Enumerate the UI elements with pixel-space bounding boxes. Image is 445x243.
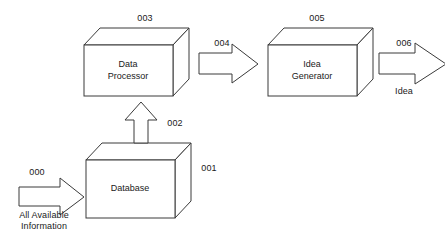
ref-label-003: 003 [137,13,152,24]
data-processor-label: Data Processor [108,59,149,82]
idea-generator-top-face [268,28,373,45]
ref-label-000: 000 [29,167,44,178]
ref-label-001: 001 [201,163,216,174]
ref-label-005: 005 [309,13,324,24]
ref-label-004: 004 [214,38,229,49]
arrow-006-output [379,43,445,84]
database-label: Database [111,183,150,195]
arrow-002-up [125,102,157,143]
block-database [86,143,191,218]
ref-label-006: 006 [396,38,411,49]
arrow-006-caption: Idea [395,86,413,97]
data-processor-top-face [84,28,189,45]
database-top-face [86,143,191,160]
ref-label-002: 002 [167,118,182,129]
arrow-004-right [199,44,258,83]
arrow-000-caption: All Available Information [19,210,69,232]
block-diagram: Data Processor Database Idea Generator 0… [0,0,445,243]
idea-generator-label: Idea Generator [292,59,333,82]
diagram-canvas [0,0,445,243]
